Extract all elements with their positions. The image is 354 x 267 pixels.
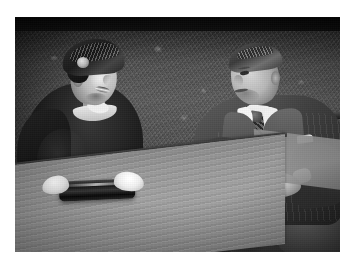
- photograph: [15, 17, 340, 252]
- screenshot-root: A man and a woman seated outdoors at a w…: [0, 0, 354, 267]
- woman-hat-brooch: [77, 57, 89, 68]
- woman-nose: [103, 75, 111, 85]
- man-ear: [271, 71, 280, 85]
- man-nose: [234, 75, 243, 87]
- woman-chin-shadow: [85, 93, 107, 103]
